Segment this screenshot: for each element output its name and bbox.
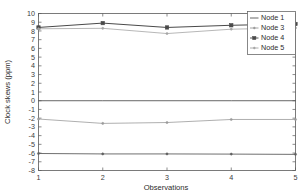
chart-legend: Node 1Node 3Node 4Node 5 bbox=[248, 12, 296, 55]
legend-label: Node 4 bbox=[261, 33, 284, 42]
y-tick-label: 6 bbox=[31, 44, 35, 53]
x-tick-label: 5 bbox=[294, 173, 298, 182]
legend-label: Node 1 bbox=[261, 13, 284, 22]
data-point-marker bbox=[101, 21, 104, 24]
data-point-marker bbox=[230, 118, 232, 120]
data-point-marker bbox=[37, 152, 39, 154]
data-point-marker bbox=[294, 118, 296, 120]
y-tick-label: 7 bbox=[31, 35, 35, 44]
legend-marker bbox=[253, 36, 256, 39]
data-point-marker bbox=[294, 153, 296, 155]
x-tick-label: 3 bbox=[165, 173, 169, 182]
data-point-marker bbox=[230, 24, 233, 27]
y-tick-label: -1 bbox=[29, 105, 35, 114]
data-point-marker bbox=[230, 153, 232, 155]
x-axis-title: Observations bbox=[144, 183, 189, 192]
legend-label: Node 5 bbox=[261, 43, 284, 52]
x-tick-label: 4 bbox=[229, 173, 233, 182]
series-node-3 bbox=[37, 118, 296, 125]
x-tick-label: 1 bbox=[37, 173, 41, 182]
data-point-marker bbox=[166, 153, 168, 155]
y-tick-label: 0 bbox=[31, 96, 35, 105]
y-tick-label: 5 bbox=[31, 53, 35, 62]
line-chart: 109876543210-1-2-3-4-5-6-7-8 12345 Node … bbox=[0, 0, 308, 193]
y-axis-title: Clock skews (ppm) bbox=[3, 59, 12, 124]
y-tick-label: 4 bbox=[31, 61, 35, 70]
legend-marker bbox=[253, 47, 255, 49]
data-point-marker bbox=[102, 27, 104, 29]
data-point-marker bbox=[102, 153, 104, 155]
y-tick-label: -6 bbox=[29, 149, 35, 158]
legend-marker bbox=[253, 27, 255, 29]
x-tick-label: 2 bbox=[101, 173, 105, 182]
y-tick-label: 3 bbox=[31, 70, 35, 79]
y-tick-label: 1 bbox=[31, 88, 35, 97]
y-tick-label: 9 bbox=[31, 18, 35, 27]
data-point-marker bbox=[37, 28, 39, 30]
y-tick-label: 2 bbox=[31, 79, 35, 88]
data-point-marker bbox=[102, 122, 104, 124]
data-point-marker bbox=[37, 118, 39, 120]
y-tick-label: 10 bbox=[27, 9, 35, 18]
data-point-marker bbox=[166, 32, 168, 34]
y-tick-label: -5 bbox=[29, 140, 35, 149]
data-point-marker bbox=[165, 26, 168, 29]
y-tick-label: -2 bbox=[29, 114, 35, 123]
series-node-2 bbox=[37, 152, 296, 155]
legend-label: Node 3 bbox=[261, 23, 284, 32]
y-tick-label: 8 bbox=[31, 27, 35, 36]
chart-figure: 109876543210-1-2-3-4-5-6-7-8 12345 Node … bbox=[0, 0, 308, 193]
y-tick-label: -4 bbox=[29, 131, 35, 140]
y-tick-label: -7 bbox=[29, 157, 35, 166]
data-point-marker bbox=[230, 28, 232, 30]
y-tick-label: -3 bbox=[29, 122, 35, 131]
y-tick-label: -8 bbox=[29, 166, 35, 175]
data-point-marker bbox=[166, 121, 168, 123]
